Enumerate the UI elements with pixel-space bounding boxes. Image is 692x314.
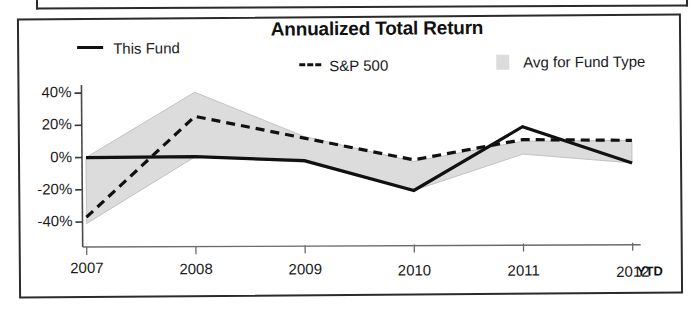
y-axis-tick-label: -40% <box>20 212 72 229</box>
x-axis-tick-label: 2008 <box>166 260 226 277</box>
y-axis-tick-label: 20% <box>20 115 72 132</box>
y-axis-tick-label: -20% <box>20 180 72 197</box>
x-axis-tick-label: 2011 <box>494 262 554 279</box>
x-axis-tick-label: 2007 <box>57 259 117 276</box>
chart-content: Annualized Total Return This Fund S&P 50… <box>0 0 692 314</box>
y-axis-tick-label: 0% <box>20 148 72 165</box>
ytd-note: YTD <box>637 264 663 279</box>
x-axis-tick-label: 2009 <box>275 260 335 277</box>
y-axis-tick-label: 40% <box>19 83 71 100</box>
x-axis-tick-label: 2010 <box>384 261 444 278</box>
